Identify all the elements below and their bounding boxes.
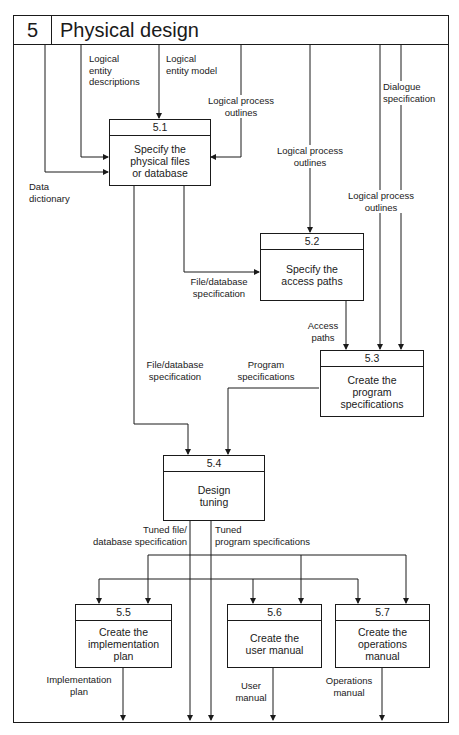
process-id: 5.1 bbox=[110, 120, 210, 136]
flow-label-file-database-specification-2: File/database specification bbox=[137, 359, 213, 382]
flow-label-tuned-program-specifications: Tuned program specifications bbox=[215, 524, 310, 547]
process-5-6: 5.6 Create the user manual bbox=[227, 604, 322, 668]
process-id: 5.3 bbox=[321, 351, 423, 367]
process-label: Design tuning bbox=[164, 472, 264, 520]
process-label: Create the program specifications bbox=[321, 367, 423, 416]
process-id: 5.7 bbox=[336, 605, 429, 621]
process-id: 5.5 bbox=[76, 605, 171, 621]
flow-label-access-paths: Access paths bbox=[303, 320, 343, 343]
flow-label-file-database-specification-1: File/database specification bbox=[181, 276, 257, 299]
flow-label-logical-process-outlines-3: Logical process outlines bbox=[343, 190, 419, 213]
flow-label-dialogue-specification: Dialogue specification bbox=[383, 81, 435, 104]
process-id: 5.2 bbox=[261, 234, 363, 250]
process-5-3: 5.3 Create the program specifications bbox=[320, 350, 424, 417]
process-id: 5.4 bbox=[164, 456, 264, 472]
process-5-2: 5.2 Specify the access paths bbox=[260, 233, 364, 301]
flow-label-data-dictionary: Data dictionary bbox=[29, 181, 70, 204]
flow-label-logical-process-outlines-1: Logical process outlines bbox=[203, 95, 279, 118]
process-label: Specify the access paths bbox=[261, 250, 363, 300]
process-label: Create the implementation plan bbox=[76, 621, 171, 667]
process-id: 5.6 bbox=[228, 605, 321, 621]
flow-label-logical-entity-model: Logical entity model bbox=[166, 53, 217, 76]
flow-label-program-specifications: Program specifications bbox=[230, 359, 302, 382]
process-5-7: 5.7 Create the operations manual bbox=[335, 604, 430, 668]
flow-label-logical-entity-descriptions: Logical entity descriptions bbox=[89, 53, 140, 88]
process-label: Specify the physical files or database bbox=[110, 136, 210, 185]
flow-label-operations-manual: Operations manual bbox=[319, 675, 379, 698]
flow-label-user-manual: User manual bbox=[231, 680, 271, 703]
process-label: Create the user manual bbox=[228, 621, 321, 667]
process-5-4: 5.4 Design tuning bbox=[163, 455, 265, 521]
process-5-5: 5.5 Create the implementation plan bbox=[75, 604, 172, 668]
process-label: Create the operations manual bbox=[336, 621, 429, 667]
flow-label-tuned-file-database-specification: Tuned file/ database specification bbox=[60, 524, 187, 547]
process-5-1: 5.1 Specify the physical files or databa… bbox=[109, 119, 211, 186]
flow-label-logical-process-outlines-2: Logical process outlines bbox=[272, 145, 348, 168]
flow-label-implementation-plan: Implementation plan bbox=[38, 674, 120, 697]
